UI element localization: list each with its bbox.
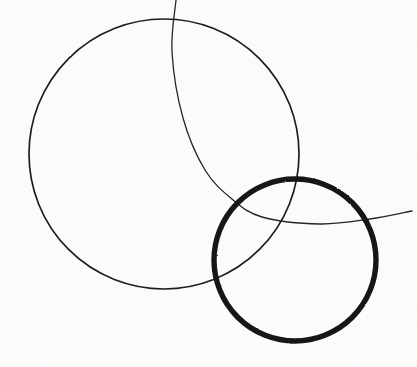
- drawing-surface: [0, 0, 417, 367]
- artwork-canvas: [0, 0, 417, 367]
